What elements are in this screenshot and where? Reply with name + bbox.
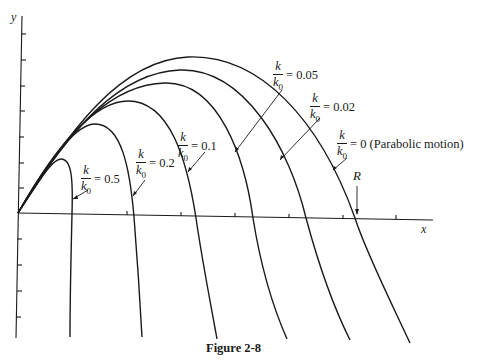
y-axis bbox=[16, 16, 22, 338]
label-k-0-parabolic: kk0= 0 (Parabolic motion) bbox=[337, 129, 464, 160]
label-k-0.1: kk0= 0.1 bbox=[178, 131, 217, 162]
curve-k-0.5 bbox=[18, 159, 72, 337]
label-k-0.05: kk0= 0.05 bbox=[273, 60, 318, 91]
trajectory-diagram bbox=[0, 0, 479, 362]
range-label: R bbox=[353, 168, 361, 184]
label-k-0.02: kk0= 0.02 bbox=[310, 92, 355, 123]
curve-k-0.05 bbox=[18, 83, 287, 339]
label-k-0.5: kk0= 0.5 bbox=[81, 164, 120, 195]
figure-caption: Figure 2-8 bbox=[206, 341, 261, 356]
label-k-0.2: kk0= 0.2 bbox=[136, 148, 175, 179]
curve-k-0.2 bbox=[18, 124, 142, 337]
curve-k-0.02 bbox=[18, 70, 350, 340]
x-axis bbox=[18, 213, 433, 220]
y-axis-label: y bbox=[11, 10, 16, 25]
x-axis-label: x bbox=[421, 222, 426, 237]
